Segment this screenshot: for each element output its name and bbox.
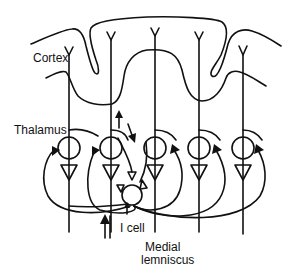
descending-feedback-arrow: [128, 124, 136, 143]
ascending-cortical-arrow: [115, 110, 123, 128]
cortex-label: Cortex: [33, 52, 68, 65]
thalamic-collaterals: [69, 129, 262, 140]
i-cell-label: I cell: [120, 222, 145, 235]
thalamus-label: Thalamus: [14, 124, 67, 137]
medial-lemniscus-label-line2: lemniscus: [141, 254, 194, 267]
thalamocortical-diagram: Cortex Thalamus I cell Medial lemniscus: [0, 0, 294, 273]
lemniscal-input-arrow: [100, 214, 110, 238]
